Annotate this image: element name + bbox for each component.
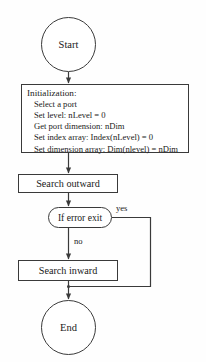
node-end-label: End (60, 322, 77, 333)
node-end: End (41, 300, 96, 355)
node-initialization: Initialization: Select a port Set level:… (21, 84, 189, 153)
initialization-steps: Select a port Set level: nLevel = 0 Get … (27, 99, 184, 154)
node-search-inward-label: Search inward (39, 265, 98, 276)
initialization-step: Select a port (27, 99, 184, 110)
node-decision-label: If error exit (58, 212, 102, 223)
initialization-step: Set index array: Index(nLevel) = 0 (27, 132, 184, 143)
initialization-step: Set level: nLevel = 0 (27, 110, 184, 121)
merge-junction (67, 285, 70, 288)
edge-label-no: no (74, 236, 83, 246)
node-search-outward-label: Search outward (36, 178, 100, 189)
flowchart-diagram: Start Initialization: Select a port Set … (0, 0, 206, 362)
node-start-label: Start (59, 39, 79, 50)
node-search-inward: Search inward (18, 260, 118, 281)
node-search-outward: Search outward (18, 174, 118, 193)
node-start: Start (41, 17, 96, 72)
edge-label-yes: yes (116, 203, 127, 213)
initialization-step: Set dimension array: Dim(nlevel) = nDim (27, 144, 184, 155)
initialization-step: Get port dimension: nDim (27, 121, 184, 132)
node-decision-if-error-exit: If error exit (48, 207, 112, 228)
initialization-title: Initialization: (27, 88, 184, 99)
